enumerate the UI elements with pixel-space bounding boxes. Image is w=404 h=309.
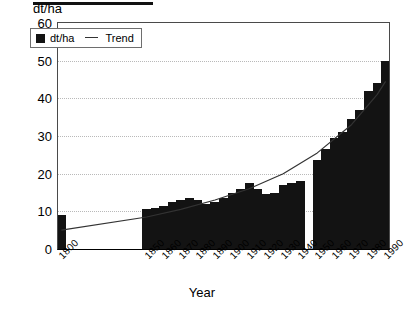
y-tick-label: 10 xyxy=(20,205,52,218)
legend-series-label: dt/ha xyxy=(50,32,74,44)
legend-trend-label: Trend xyxy=(105,32,133,44)
y-axis-label: dt/ha xyxy=(33,2,62,16)
plot-area xyxy=(57,22,390,250)
chart-container: dt/ha 0102030405060 18001850186018701880… xyxy=(0,0,404,309)
legend-line-icon xyxy=(85,37,98,38)
y-tick-label: 30 xyxy=(20,130,52,143)
chart-legend: dt/ha Trend xyxy=(30,28,142,48)
legend-swatch-icon xyxy=(36,34,45,43)
y-tick-label: 0 xyxy=(20,243,52,256)
x-axis-title: Year xyxy=(0,285,404,300)
y-tick-label: 50 xyxy=(20,55,52,68)
y-tick-label: 40 xyxy=(20,92,52,105)
y-tick-label: 20 xyxy=(20,168,52,181)
trend-line xyxy=(58,23,389,249)
